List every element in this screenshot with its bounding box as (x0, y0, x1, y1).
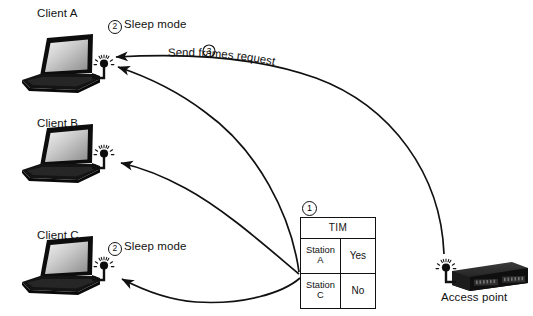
tim-row-0-station-line1: Station (306, 245, 335, 255)
tim-table: TIM Station A Yes Station C No (300, 217, 376, 309)
tim-row-0-value: Yes (340, 239, 375, 274)
tim-row-1-station: Station C (301, 274, 341, 309)
flow-send-frames-label: 3 Send frames request (168, 45, 277, 68)
step-number-2-client-a: 2 (108, 20, 122, 34)
access-point-icon (452, 262, 528, 291)
client-a-label: Client A (37, 7, 77, 19)
client-c-state-text: Sleep mode (124, 240, 186, 252)
flow-send-frames-arrow (116, 56, 444, 254)
step-number-1-tim: 1 (302, 201, 317, 216)
table-row: Station C No (301, 274, 376, 309)
diagram-canvas: 3 Send frames request Client A Client B … (0, 0, 533, 316)
client-c-label: Client C (37, 229, 79, 241)
flow-tim-to-client-b-arrow (121, 163, 299, 274)
tim-table-header: TIM (301, 218, 376, 239)
client-a-state-text: Sleep mode (124, 18, 186, 30)
client-b-label: Client B (37, 117, 78, 129)
access-point-label: Access point (441, 291, 507, 303)
diagram-vector-layer: 3 Send frames request (0, 0, 533, 316)
laptop-icon-client-b (22, 124, 100, 183)
laptop-icon-client-c (22, 236, 100, 295)
tim-step-number-wrap: 1 (302, 200, 319, 216)
tim-row-0-station-line2: A (317, 255, 323, 265)
flow-send-frames-text: Send frames request (168, 46, 277, 67)
client-a-state-label: 2Sleep mode (108, 18, 186, 34)
tim-row-1-value: No (340, 274, 375, 309)
tim-table-wrap: TIM Station A Yes Station C No (300, 217, 376, 305)
laptop-icon-client-a (22, 34, 100, 93)
table-row: Station A Yes (301, 239, 376, 274)
flow-tim-to-client-c-arrow (122, 278, 300, 302)
tim-row-1-station-line2: C (317, 290, 324, 300)
step-number-2-client-c: 2 (108, 242, 122, 256)
tim-row-1-station-line1: Station (306, 280, 335, 290)
tim-row-0-station: Station A (301, 239, 341, 274)
client-c-state-label: 2Sleep mode (108, 240, 186, 256)
table-row-header: TIM (301, 218, 376, 239)
